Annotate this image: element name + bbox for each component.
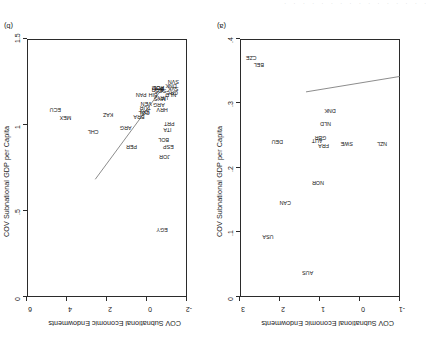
data-point-label: BIH <box>149 91 158 96</box>
data-point-label: NOR <box>312 180 324 185</box>
data-point-label: ESP <box>163 143 174 148</box>
data-point-label: JOR <box>159 153 170 158</box>
data-point-label: CAN <box>280 199 291 204</box>
data-point-label: ECU <box>50 106 61 111</box>
data-point-label: MEX <box>60 114 72 119</box>
panel-tag-a: (a) <box>217 22 226 31</box>
data-point-label: BEL <box>254 61 264 66</box>
data-point-label: BOL <box>158 136 169 141</box>
panel-a-inner: -10123COV Subnational Economic Endowment… <box>213 0 426 339</box>
data-point-label: DNK <box>324 107 335 112</box>
data-point-label: NLD <box>320 120 331 125</box>
data-point-label: NZL <box>377 141 387 146</box>
data-point-label: PRT <box>164 120 175 125</box>
data-point-label: BRA <box>133 114 144 119</box>
data-point-label: CZE <box>246 54 257 59</box>
data-point-label: ITA <box>163 126 171 131</box>
data-point-label: USA <box>262 234 273 239</box>
data-point-label: SWE <box>341 141 353 146</box>
data-point-label: ARG <box>120 124 132 129</box>
panel-a: -10123COV Subnational Economic Endowment… <box>213 0 426 339</box>
panel-tag-b: (b) <box>4 22 13 31</box>
data-point-label: DEU <box>272 138 283 143</box>
data-point-label: AUS <box>302 270 313 275</box>
data-point-label: PAN <box>136 92 147 97</box>
regression-fit-line <box>0 0 213 339</box>
data-point-label: EGY <box>156 227 167 232</box>
data-point-label: DNK <box>165 83 176 88</box>
data-point-label: PER <box>126 143 137 148</box>
data-point-label: AUT <box>312 137 323 142</box>
regression-fit-line <box>213 0 426 339</box>
data-point-label: ARG <box>153 101 165 106</box>
data-point-label: KAZ <box>103 111 113 116</box>
panel-b-inner: -20246COV Subnational Economic Endowment… <box>0 0 213 339</box>
panel-b: -20246COV Subnational Economic Endowment… <box>0 0 213 339</box>
figure-rotator: . . . . . . . . . . . . . . . . -10123CO… <box>0 0 426 339</box>
data-point-label: CHL <box>88 129 99 134</box>
